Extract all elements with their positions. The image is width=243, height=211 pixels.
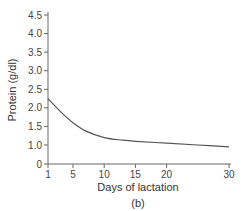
y-tick-label: 2.5 xyxy=(28,84,42,95)
x-axis-label: Days of lactation xyxy=(97,181,178,193)
y-axis-label: Protein (g/dl) xyxy=(6,59,18,122)
x-tick-label: 20 xyxy=(161,169,173,180)
line-chart: 01.01.52.02.53.03.54.04.5 1510152030 Pro… xyxy=(0,0,243,211)
y-tick-label: 1.0 xyxy=(28,140,42,151)
y-tick-label: 4.0 xyxy=(28,28,42,39)
x-tick-label: 1 xyxy=(45,169,51,180)
y-tick-label: 2.0 xyxy=(28,102,42,113)
y-tick-label: 0 xyxy=(36,159,42,170)
x-tick-label: 15 xyxy=(130,169,142,180)
x-tick-label: 5 xyxy=(70,169,76,180)
protein-curve xyxy=(48,99,229,147)
chart-subtitle: (b) xyxy=(131,197,144,209)
y-tick-label: 3.5 xyxy=(28,47,42,58)
y-tick-label: 3.0 xyxy=(28,65,42,76)
y-tick-label: 4.5 xyxy=(28,10,42,21)
x-tick-label: 30 xyxy=(223,169,235,180)
y-axis-ticks: 01.01.52.02.53.03.54.04.5 xyxy=(28,10,48,170)
x-axis-ticks: 1510152030 xyxy=(45,164,235,180)
x-tick-label: 10 xyxy=(99,169,111,180)
y-tick-label: 1.5 xyxy=(28,121,42,132)
